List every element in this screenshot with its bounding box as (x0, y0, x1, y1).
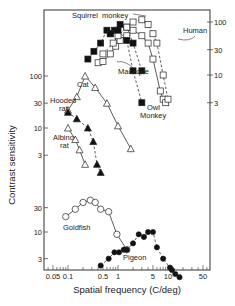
left-y-tick-label: 30 (34, 99, 42, 108)
left-y-tick-label: 10 (34, 124, 42, 133)
label-owl-monkey-2: Monkey (140, 111, 167, 120)
label-goldfish: Goldfish (63, 223, 91, 232)
left-y-axis-ticks: 1003010330103 (29, 72, 48, 264)
data-series (63, 17, 183, 280)
y-axis-label: Contrast sensitivity (6, 125, 17, 205)
contrast-sensitivity-chart: 0.050.10.5151050 10030103 1003010330103 … (0, 0, 235, 306)
x-tick-label: 50 (199, 272, 207, 281)
x-tick-label: 0.1 (63, 272, 73, 281)
x-tick-label: 5 (151, 272, 155, 281)
right-y-tick-label: 10 (214, 71, 222, 80)
left-y-tick-label: 30 (34, 204, 42, 213)
label-hooded-rat-2: rat (59, 104, 69, 113)
left-y-tick-label: 100 (29, 72, 42, 81)
arrow-human (178, 36, 195, 40)
x-tick-label: 1 (116, 272, 120, 281)
label-human: Human (183, 26, 207, 35)
x-tick-label: 0.05 (46, 272, 61, 281)
left-y-tick-label: 3 (38, 255, 42, 264)
label-albino-rat-2: rat (60, 141, 70, 150)
left-y-tick-label: 10 (34, 228, 42, 237)
label-pigeon: Pigeon (123, 253, 146, 262)
arrow-squirrel-monkey (133, 14, 146, 16)
label-cat: Cat (77, 80, 90, 89)
x-axis-ticks: 0.050.10.5151050 (46, 265, 207, 281)
x-tick-label: 0.5 (98, 272, 108, 281)
right-y-tick-label: 30 (214, 46, 222, 55)
left-y-tick-label: 3 (38, 151, 42, 160)
label-macaque: Macaque (118, 67, 149, 76)
right-y-tick-label: 3 (214, 99, 218, 108)
label-squirrel-monkey: Squirrel monkey (72, 11, 129, 20)
x-tick-label: 10 (164, 272, 172, 281)
right-y-tick-label: 100 (214, 18, 227, 27)
x-axis-label: Spatial frequency (C/deg) (73, 284, 181, 295)
